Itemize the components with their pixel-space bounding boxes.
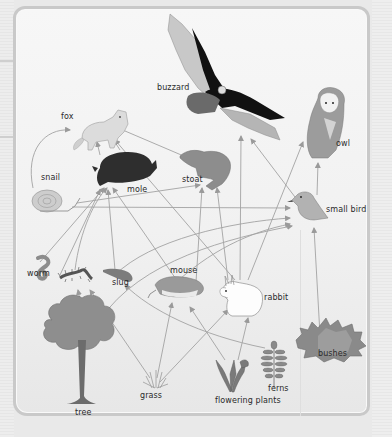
snail-icon [32, 190, 80, 212]
label-flowering-plants: flowering plants [215, 396, 281, 405]
fox-icon [73, 110, 128, 150]
arrow-mole-fox [97, 142, 100, 155]
arrow-grass-rabbit [160, 310, 228, 382]
arrow-small-bird-owl [317, 163, 318, 195]
label-bushes: bushes [318, 349, 347, 358]
small-bird-icon [287, 192, 328, 220]
rabbit-icon [220, 275, 263, 316]
label-grass: grass [140, 391, 162, 400]
arrow-snail-small-bird [72, 207, 290, 208]
arrow-bushes-small-bird [314, 228, 320, 335]
arrow-centipede-mole [75, 188, 107, 270]
label-snail: snail [41, 173, 60, 182]
food-web-diagram [0, 0, 392, 437]
label-tree: tree [75, 408, 92, 417]
buzzard-icon [168, 14, 285, 140]
mouse-icon [148, 277, 203, 298]
label-ferns: ferns [268, 384, 289, 393]
label-stoat: stoat [182, 175, 203, 184]
arrow-flowering-mouse [190, 307, 225, 360]
label-mouse: mouse [170, 266, 197, 275]
mole-icon [92, 152, 157, 186]
label-slug: slug [112, 278, 129, 287]
tree-icon [44, 295, 115, 404]
arrow-slug-small-bird [115, 218, 290, 275]
label-buzzard: buzzard [157, 83, 189, 92]
arrow-rabbit-buzzard [240, 136, 241, 280]
arrow-flowering-rabbit [238, 318, 248, 360]
label-owl: owl [336, 139, 350, 148]
label-mole: mole [127, 185, 147, 194]
arrow-slug-mole [108, 190, 115, 270]
label-fox: fox [61, 112, 74, 121]
arrow-rabbit-stoat [217, 188, 228, 280]
label-rabbit: rabbit [264, 293, 288, 302]
label-small-bird: small bird [326, 205, 366, 214]
flowering-plants-icon [216, 360, 248, 392]
arrow-rabbit-owl [248, 142, 303, 280]
label-worm: worm [27, 269, 50, 278]
arrow-small-bird-buzzard [251, 139, 295, 197]
stoat-icon [180, 150, 231, 190]
arrow-grass-mouse [157, 303, 172, 378]
